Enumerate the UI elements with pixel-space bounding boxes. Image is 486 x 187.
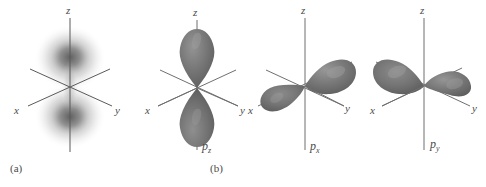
- panel-p-z-orbital: z x y pz: [140, 0, 255, 187]
- y-axis-label-p-z: y: [240, 105, 245, 116]
- panel-electron-density-cloud: z x y (a): [0, 0, 150, 187]
- z-axis-label-p-y: z: [420, 5, 424, 16]
- panel-p-y-orbital: z x y py: [362, 0, 486, 187]
- x-axis-label-p-z: x: [145, 105, 150, 116]
- orbital-label-p-z-sub: z: [208, 146, 211, 155]
- orbital-label-p-y-sub: y: [436, 144, 440, 153]
- orbital-label-p-x: px: [310, 140, 320, 155]
- p-x-orbital-diagram: [248, 0, 366, 187]
- x-axis-label-p-x: x: [248, 105, 253, 116]
- electron-density-cloud-diagram: [0, 0, 150, 187]
- p-z-orbital-diagram: [140, 0, 255, 187]
- panel-caption-a: (a): [10, 163, 22, 174]
- p-y-orbital-diagram: [362, 0, 486, 187]
- p-x-lobe-back: [260, 85, 305, 112]
- z-axis-label-p-z: z: [193, 7, 197, 18]
- orbital-label-p-z: pz: [202, 140, 211, 155]
- z-axis-label-p-x: z: [301, 5, 305, 16]
- orbital-label-p-x-sub: x: [316, 146, 320, 155]
- orbital-label-p-y: py: [430, 138, 440, 153]
- y-axis-label-p-x: y: [345, 103, 350, 114]
- y-axis-label-p-y: y: [472, 103, 477, 114]
- x-axis-label-p-y: x: [370, 105, 375, 116]
- panel-caption-b: (b): [210, 163, 223, 174]
- y-axis-label-panel-a: y: [115, 105, 120, 116]
- p-orbital-figure: z x y (a): [0, 0, 486, 187]
- x-axis-label-panel-a: x: [14, 105, 19, 116]
- panel-p-x-orbital: z x y px (b): [248, 0, 366, 187]
- z-axis-label-panel-a: z: [66, 5, 70, 16]
